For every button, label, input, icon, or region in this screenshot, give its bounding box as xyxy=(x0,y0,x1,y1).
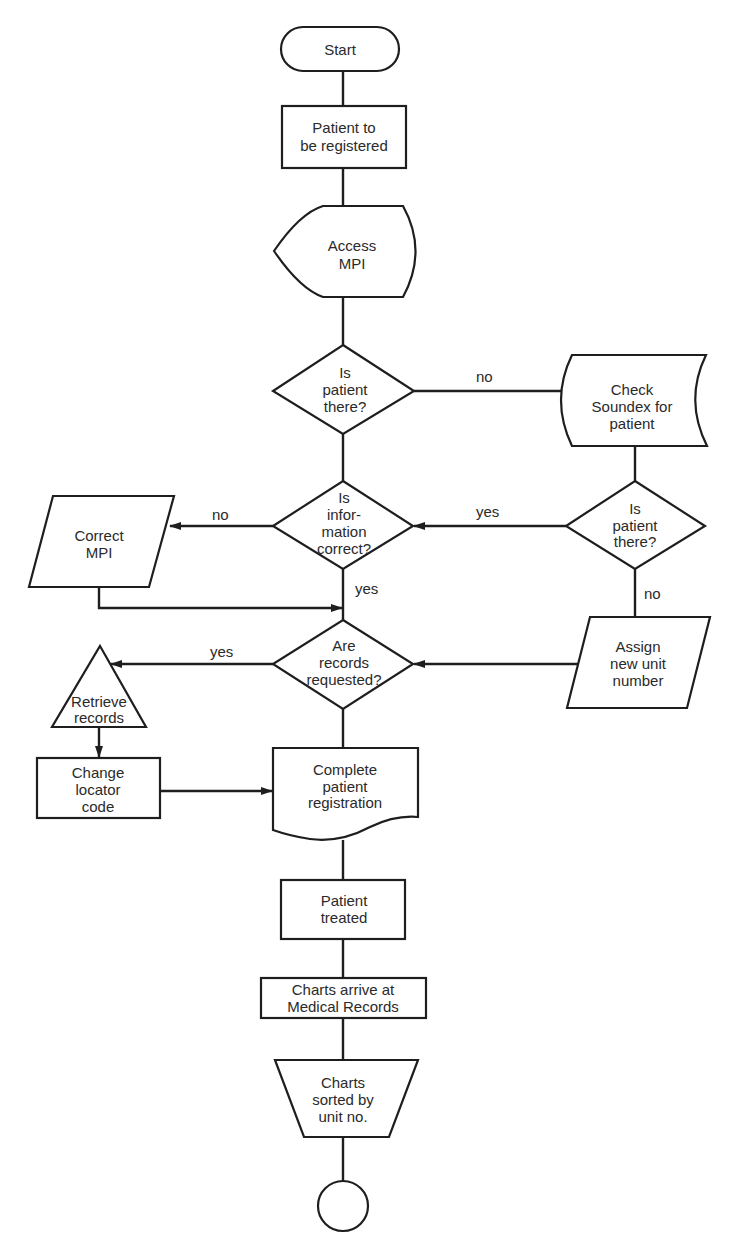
node-correct-mpi[interactable]: Correct MPI xyxy=(29,496,174,587)
node-label: patient xyxy=(322,381,368,398)
node-label: Check xyxy=(611,381,654,398)
node-check-soundex[interactable]: Check Soundex for patient xyxy=(561,355,707,446)
node-label: unit no. xyxy=(318,1108,367,1125)
edge-label-no: no xyxy=(476,368,493,385)
node-assign-unit-number[interactable]: Assign new unit number xyxy=(567,617,710,708)
node-label: there? xyxy=(324,398,367,415)
node-label: Are xyxy=(332,637,355,654)
node-label: Retrieve xyxy=(71,693,127,710)
node-label: Assign xyxy=(615,638,660,655)
edge-label-yes: yes xyxy=(210,643,233,660)
node-label: Patient to xyxy=(312,119,375,136)
node-label: Soundex for xyxy=(592,398,673,415)
node-label: Charts arrive at xyxy=(292,981,395,998)
edge-label-yes: yes xyxy=(355,580,378,597)
node-change-locator-code[interactable]: Change locator code xyxy=(37,758,160,818)
node-label: Change xyxy=(72,764,125,781)
node-label: number xyxy=(613,672,664,689)
node-label: Start xyxy=(324,41,357,58)
node-retrieve-records[interactable]: Retrieve records xyxy=(52,646,146,727)
node-label: correct? xyxy=(317,540,371,557)
node-label: code xyxy=(82,798,115,815)
node-patient-treated[interactable]: Patient treated xyxy=(281,880,405,939)
node-is-patient-there-1[interactable]: Is patient there? xyxy=(273,345,414,434)
node-label: patient xyxy=(322,778,368,795)
node-label: be registered xyxy=(300,137,388,154)
node-label: there? xyxy=(614,533,657,550)
node-label: MPI xyxy=(86,544,113,561)
node-label: patient xyxy=(612,517,658,534)
node-label: requested? xyxy=(306,671,381,688)
node-label: Complete xyxy=(313,761,377,778)
node-register[interactable]: Patient to be registered xyxy=(282,106,406,168)
node-info-correct[interactable]: Is infor- mation correct? xyxy=(273,481,413,569)
node-label: Correct xyxy=(74,527,124,544)
node-label: MPI xyxy=(339,255,366,272)
node-end[interactable] xyxy=(318,1181,368,1231)
node-label: Charts xyxy=(321,1074,365,1091)
node-records-requested[interactable]: Are records requested? xyxy=(273,620,413,709)
node-label: mation xyxy=(321,523,366,540)
node-label: records xyxy=(319,654,369,671)
node-label: records xyxy=(74,709,124,726)
node-label: Access xyxy=(328,237,376,254)
node-label: sorted by xyxy=(312,1091,374,1108)
node-complete-registration[interactable]: Complete patient registration xyxy=(273,748,418,840)
node-label: Is xyxy=(629,500,641,517)
node-label: infor- xyxy=(327,506,361,523)
edge-label-no: no xyxy=(644,585,661,602)
node-label: registration xyxy=(308,794,382,811)
node-label: patient xyxy=(609,415,655,432)
flowchart-canvas: Start Patient to be registered Access MP… xyxy=(0,0,730,1257)
node-charts-sorted[interactable]: Charts sorted by unit no. xyxy=(275,1060,418,1137)
connector-circle xyxy=(318,1181,368,1231)
node-is-patient-there-2[interactable]: Is patient there? xyxy=(566,481,705,569)
edge-label-no: no xyxy=(212,506,229,523)
node-label: Is xyxy=(338,489,350,506)
node-label: treated xyxy=(321,909,368,926)
node-label: new unit xyxy=(610,655,667,672)
edge-correctmpi-merge xyxy=(99,587,342,608)
node-access-mpi[interactable]: Access MPI xyxy=(274,206,416,297)
node-charts-arrive[interactable]: Charts arrive at Medical Records xyxy=(261,978,426,1018)
node-label: Patient xyxy=(321,892,369,909)
node-label: Is xyxy=(339,364,351,381)
node-label: Medical Records xyxy=(287,998,399,1015)
node-start[interactable]: Start xyxy=(281,27,399,71)
node-label: locator xyxy=(75,781,120,798)
edge-label-yes: yes xyxy=(476,503,499,520)
